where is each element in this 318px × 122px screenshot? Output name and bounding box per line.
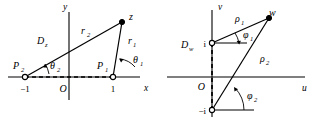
ray-rho2-label: ρ: [259, 53, 265, 64]
angle-theta2-label: θ: [50, 60, 55, 71]
point-i-marker: [209, 40, 214, 45]
ray-rho2-sublabel: 2: [266, 59, 270, 66]
angle-phi1-sublabel: 1: [250, 35, 253, 42]
z-plane-diagram: y x O −1 1 P 2 P 1 z D z r 2 r 1 θ 2 θ 1: [0, 0, 159, 122]
angle-theta1-sublabel: 1: [140, 60, 143, 67]
ray-rho1-sublabel: 1: [241, 19, 244, 26]
region-Dz-label: D: [36, 35, 45, 46]
point-P2-label: P: [12, 60, 19, 71]
point-P2-sublabel: 2: [21, 66, 25, 73]
ray-rho1-label: ρ: [234, 13, 240, 24]
ray-r1-sublabel: 1: [133, 41, 136, 48]
region-Dw-sublabel: w: [189, 45, 194, 52]
w-plane-diagram: v u O i −i w D w ρ 1 ρ 2 φ 1 φ 2: [159, 0, 318, 122]
angle-phi2-arc: [235, 88, 244, 110]
point-P2-marker: [22, 74, 27, 79]
point-P1-marker: [110, 74, 115, 79]
point-z-label: z: [128, 11, 133, 22]
angle-phi1-label: φ: [243, 29, 249, 40]
y-axis-label: y: [62, 2, 68, 12]
angle-theta2-sublabel: 2: [57, 66, 61, 73]
u-axis-label: u: [302, 83, 307, 93]
ray-r1-line: [113, 22, 122, 77]
angle-phi2-label: φ: [247, 90, 253, 101]
v-axis-label: v: [218, 2, 223, 12]
ray-r1-label: r: [128, 35, 132, 46]
x-axis-label: x: [143, 83, 149, 93]
angle-theta1-label: θ: [133, 54, 138, 65]
origin-label: O: [59, 83, 66, 94]
point-P1-sublabel: 1: [105, 66, 108, 73]
point-z-marker: [119, 19, 124, 24]
angle-theta1-arrowhead: [119, 59, 124, 63]
point-P1-label: P: [96, 60, 103, 71]
region-Dw-label: D: [180, 39, 189, 50]
origin-label: O: [198, 81, 205, 92]
point-minus-i-marker: [209, 107, 214, 112]
ray-r2-label: r: [81, 25, 85, 36]
point-w-label: w: [269, 7, 276, 18]
ray-r2-sublabel: 2: [87, 31, 91, 38]
tick-label-minus-i: −i: [198, 106, 206, 116]
region-Dz-sublabel: z: [44, 41, 48, 48]
tick-label-one: 1: [111, 84, 116, 94]
angle-phi2-sublabel: 2: [254, 96, 258, 103]
tick-label-minus-one: −1: [20, 84, 30, 94]
tick-label-i: i: [203, 39, 206, 49]
complex-plane-mapping-figure: y x O −1 1 P 2 P 1 z D z r 2 r 1 θ 2 θ 1: [0, 0, 318, 122]
